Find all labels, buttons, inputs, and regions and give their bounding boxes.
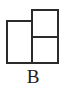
figure-caption-label: B: [0, 64, 66, 89]
geometric-shape: [0, 0, 66, 66]
shape-cell-right-top-square: [31, 9, 59, 38]
shape-cell-right-bottom-square: [31, 36, 59, 64]
shape-cell-left-square: [6, 20, 33, 64]
figure-panel: B: [0, 0, 66, 89]
